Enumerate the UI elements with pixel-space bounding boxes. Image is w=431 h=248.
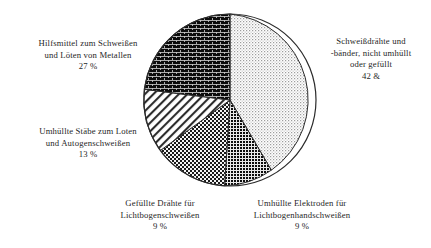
- label-line-1: Schweißdrähte und: [312, 36, 430, 48]
- label-percent: 9 %: [226, 221, 378, 233]
- label-line-2: und Autogenschweißen: [0, 138, 176, 150]
- label-line-2: Lichtbogenhandschweißen: [226, 210, 378, 222]
- label-percent: 27 %: [2, 61, 174, 73]
- label-line-1: Hilfsmittel zum Schweißen: [2, 38, 174, 50]
- label-line-2: -bänder, nicht umhüllt: [312, 48, 430, 60]
- slice-label-umhuellte-staebe: Umhüllte Stäbe zum Loten und Autogenschw…: [0, 126, 176, 161]
- label-line-1: Umhüllte Elektroden für: [226, 198, 378, 210]
- slice-label-umhuellte-elektroden: Umhüllte Elektroden für Lichtbogenhandsc…: [226, 198, 378, 233]
- label-percent: 13 %: [0, 149, 176, 161]
- label-percent: 42 &: [312, 71, 430, 83]
- label-line-1: Umhüllte Stäbe zum Loten: [0, 126, 176, 138]
- label-line-1: Gefüllte Drähte für: [92, 198, 228, 210]
- label-line-3: oder gefüllt: [312, 59, 430, 71]
- slice-label-gefuellte-draehte: Gefüllte Drähte für Lichtbogenschweißen …: [92, 198, 228, 233]
- slice-label-schweissdraehte: Schweißdrähte und -bänder, nicht umhüllt…: [312, 36, 430, 82]
- label-percent: 9 %: [92, 221, 228, 233]
- pie-chart-figure: Schweißdrähte und -bänder, nicht umhüllt…: [0, 0, 431, 248]
- label-line-2: Lichtbogenschweißen: [92, 210, 228, 222]
- slice-label-hilfsmittel: Hilfsmittel zum Schweißen und Löten von …: [2, 38, 174, 73]
- label-line-2: und Löten von Metallen: [2, 50, 174, 62]
